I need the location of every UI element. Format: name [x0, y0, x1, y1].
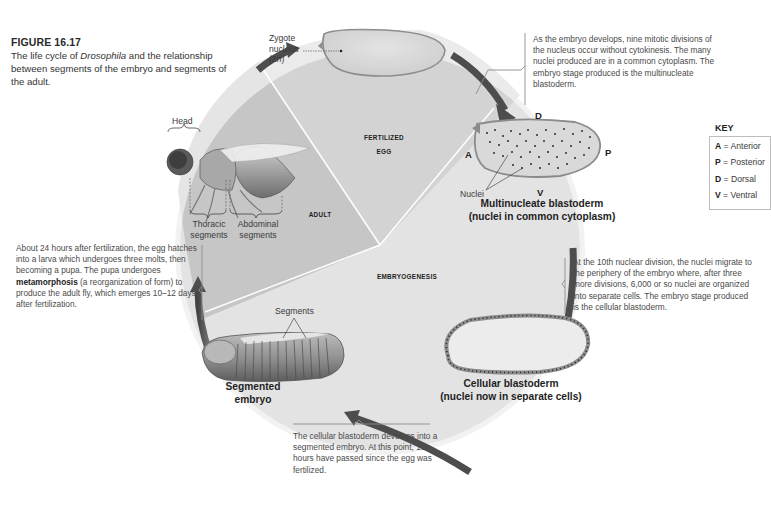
- sector-fertilized-egg: FERTILIZED EGG: [352, 131, 416, 159]
- multinucleate-note: As the embryo develops, nine mitotic div…: [533, 34, 718, 90]
- sector-adult: ADULT: [295, 208, 345, 222]
- caption-species: Drosophila: [80, 50, 126, 61]
- key-item-dorsal: D = Dorsal: [715, 171, 765, 187]
- axis-posterior-label: P: [605, 147, 611, 158]
- zygote-label-line2: nucleus: [269, 44, 299, 55]
- sector-embryogenesis: EMBRYOGENESIS: [362, 270, 452, 284]
- figure-number: FIGURE 16.17: [11, 36, 81, 48]
- head-label: Head: [172, 116, 193, 127]
- zygote-label-ploidy: (2n): [269, 54, 299, 65]
- cellular-note: At the 10th nuclear division, the nuclei…: [573, 257, 753, 313]
- axis-anterior-label: A: [465, 149, 472, 160]
- key-item-anterior: A = Anterior: [715, 138, 765, 154]
- segmented-title: Segmented embryo: [218, 380, 288, 406]
- adult-note: About 24 hours after fertilization, the …: [16, 243, 198, 310]
- key-title: KEY: [715, 123, 734, 133]
- axis-dorsal-label: D: [535, 110, 542, 121]
- metamorphosis-term: metamorphosis: [16, 277, 78, 287]
- segments-label: Segments: [275, 306, 314, 317]
- segmented-note: The cellular blastoderm develops into a …: [293, 431, 443, 476]
- thoracic-segments-label: Thoracic segments: [187, 219, 231, 240]
- caption-text: The life cycle of: [11, 50, 80, 61]
- cellular-title: Cellular blastoderm (nuclei now in separ…: [426, 377, 596, 403]
- zygote-label-line1: Zygote: [269, 33, 299, 44]
- key-item-ventral: V = Ventral: [715, 187, 765, 203]
- key-items: A = Anterior P = Posterior D = Dorsal V …: [715, 138, 765, 203]
- figure-caption: The life cycle of Drosophila and the rel…: [11, 49, 236, 88]
- abdominal-segments-label: Abdominal segments: [231, 219, 285, 240]
- cellular-embryo: [446, 315, 588, 372]
- zygote-nucleus-label: Zygote nucleus (2n): [269, 33, 299, 65]
- multinucleate-title: Multinucleate blastoderm (nuclei in comm…: [462, 197, 622, 223]
- key-item-posterior: P = Posterior: [715, 154, 765, 170]
